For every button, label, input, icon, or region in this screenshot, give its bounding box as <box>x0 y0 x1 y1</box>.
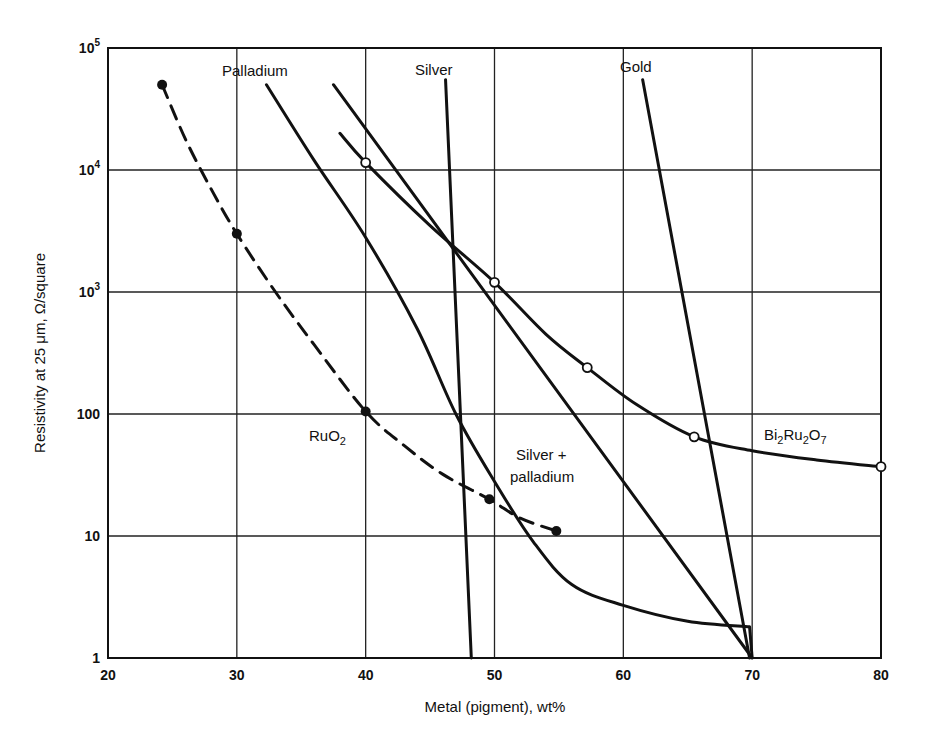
x-tick-label: 80 <box>873 667 889 683</box>
y-tick-label: 105 <box>79 37 101 56</box>
x-tick-label: 30 <box>229 667 245 683</box>
data-point-open <box>877 462 886 471</box>
label-bi2ru2o7: Bi2Ru2O7 <box>764 426 827 446</box>
series-group <box>162 80 881 658</box>
label-gold: Gold <box>620 58 652 75</box>
y-axis-title: Resistivity at 25 μm, Ω/square <box>31 253 48 453</box>
x-axis-title: Metal (pigment), wt% <box>425 698 566 715</box>
label-silver-palladium-line2: palladium <box>510 468 574 485</box>
y-tick-labels: 105104103100101 <box>77 37 101 666</box>
series-palladium <box>266 85 749 627</box>
label-palladium: Palladium <box>222 62 288 79</box>
x-tick-label: 60 <box>616 667 632 683</box>
y-tick-label: 1 <box>92 650 100 666</box>
y-tick-label: 104 <box>79 159 101 178</box>
data-point-open <box>690 432 699 441</box>
data-point-open <box>490 278 499 287</box>
grid-lines <box>108 48 881 658</box>
label-silver: Silver <box>415 61 453 78</box>
data-point-filled <box>484 494 494 504</box>
x-tick-label: 70 <box>744 667 760 683</box>
series-gold <box>643 80 750 658</box>
x-tick-label: 50 <box>487 667 503 683</box>
data-point-filled <box>361 406 371 416</box>
data-point-filled <box>157 80 167 90</box>
series-bi2ru2o7 <box>340 133 881 466</box>
label-silver-palladium-line1: Silver + <box>516 446 567 463</box>
x-tick-label: 40 <box>358 667 374 683</box>
data-point-filled <box>232 229 242 239</box>
series-silver <box>446 80 472 658</box>
y-tick-label: 100 <box>77 406 101 422</box>
y-tick-label: 10 <box>84 528 100 544</box>
x-tick-labels: 20304050607080 <box>100 667 889 683</box>
series-silver-palladium <box>333 85 752 658</box>
data-point-open <box>583 363 592 372</box>
label-ruo2: RuO2 <box>309 427 346 447</box>
data-point-filled <box>551 526 561 536</box>
resistivity-chart: 20304050607080 105104103100101 Metal (pi… <box>0 0 930 750</box>
y-tick-label: 103 <box>79 281 101 300</box>
data-point-open <box>361 158 370 167</box>
x-tick-label: 20 <box>100 667 116 683</box>
